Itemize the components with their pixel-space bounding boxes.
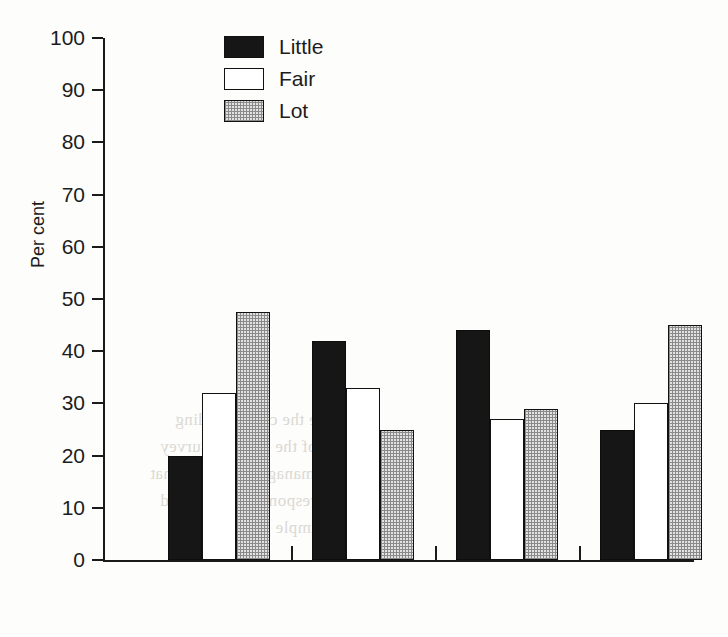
legend-item-lot[interactable]: Lot	[224, 96, 323, 125]
y-axis-tick-label: 70	[62, 183, 85, 207]
legend-swatch-lot-icon	[224, 100, 264, 122]
bar-multi-lot	[236, 312, 270, 560]
y-axis-tick: 20	[92, 455, 103, 457]
bar-hosp-lot	[524, 409, 558, 560]
bar-br-little	[312, 341, 346, 560]
bars-layer	[103, 38, 694, 562]
y-axis-tick: 50	[92, 298, 103, 300]
y-axis-tick-label: 40	[62, 339, 85, 363]
y-axis-tick-label: 100	[50, 26, 85, 50]
bar-finco-fair	[634, 403, 668, 560]
y-axis-tick: 10	[92, 507, 103, 509]
chart-page: and the the corresponding of the relevan…	[0, 0, 728, 637]
legend-swatch-little-icon	[224, 36, 264, 58]
legend-item-fair[interactable]: Fair	[224, 64, 323, 93]
legend-label-little: Little	[279, 35, 323, 59]
y-axis-tick: 100	[92, 37, 103, 39]
bar-br-fair	[346, 388, 380, 560]
x-axis-separator-tick	[579, 546, 581, 560]
legend-item-little[interactable]: Little	[224, 32, 323, 61]
y-axis-tick-label: 60	[62, 235, 85, 259]
legend-label-lot: Lot	[279, 99, 308, 123]
y-axis-tick-label: 0	[73, 548, 85, 572]
x-axis-separator-tick	[435, 546, 437, 560]
chart-legend: Little Fair Lot	[224, 32, 323, 128]
y-axis-tick-label: 80	[62, 130, 85, 154]
bar-br-lot	[380, 430, 414, 561]
y-axis-tick-label: 30	[62, 391, 85, 415]
bar-hosp-fair	[490, 419, 524, 560]
y-axis-tick-label: 90	[62, 78, 85, 102]
y-axis-tick: 80	[92, 141, 103, 143]
y-axis-tick-label: 20	[62, 444, 85, 468]
bar-multi-little	[168, 456, 202, 560]
y-axis-tick: 90	[92, 89, 103, 91]
y-axis-tick: 40	[92, 350, 103, 352]
bar-finco-lot	[668, 325, 702, 560]
legend-swatch-fair-icon	[224, 68, 264, 90]
y-axis-tick: 70	[92, 194, 103, 196]
bar-hosp-little	[456, 330, 490, 560]
y-axis-title: Per cent	[28, 201, 49, 268]
legend-label-fair: Fair	[279, 67, 315, 91]
bar-multi-fair	[202, 393, 236, 560]
y-axis-tick: 0	[92, 559, 103, 561]
y-axis-tick: 30	[92, 402, 103, 404]
x-axis-separator-tick	[291, 546, 293, 560]
bar-finco-little	[600, 430, 634, 561]
y-axis-tick-label: 50	[62, 287, 85, 311]
plot-area: 0102030405060708090100	[103, 38, 694, 562]
y-axis-tick: 60	[92, 246, 103, 248]
y-axis-tick-label: 10	[62, 496, 85, 520]
